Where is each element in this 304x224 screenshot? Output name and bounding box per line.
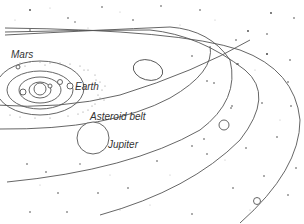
orbit-saturn (5, 27, 232, 182)
saturn-ring-icon (131, 56, 165, 83)
stars (26, 5, 297, 215)
uranus-icon (219, 120, 229, 130)
sun-icon (34, 83, 46, 95)
label-jupiter: Jupiter (108, 140, 138, 150)
label-earth: Earth (75, 82, 99, 92)
label-mars: Mars (11, 50, 33, 60)
mars-icon (16, 65, 20, 69)
solar-system-diagram: Mars Earth Asteroid belt Jupiter (0, 0, 304, 224)
earth-icon (67, 83, 73, 89)
jupiter-icon (77, 122, 109, 154)
orbit-jupiter-inner (0, 40, 250, 106)
planets (16, 56, 261, 204)
neptune-icon (254, 198, 261, 205)
mercury-icon (48, 84, 52, 88)
orbits (0, 27, 300, 223)
diagram-canvas (0, 0, 304, 224)
orbit-neptune (5, 28, 300, 223)
venus2-icon (20, 89, 26, 95)
faint-stars (14, 7, 280, 210)
venus-icon (58, 80, 63, 85)
label-asteroid-belt: Asteroid belt (90, 112, 146, 122)
